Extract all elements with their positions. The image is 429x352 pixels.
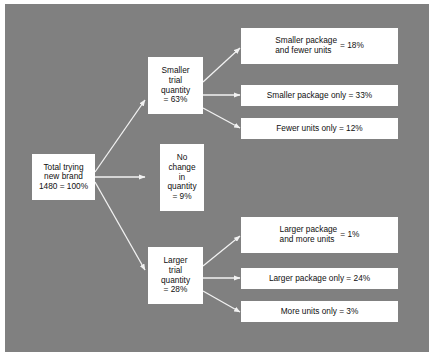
leaf-1-value: = 18% bbox=[340, 41, 364, 51]
edge-root-to-smaller bbox=[95, 100, 145, 172]
larger-line-4: = 28% bbox=[161, 285, 190, 295]
node-larger-package-and-more-units[interactable]: Larger package and more units = 1% bbox=[241, 217, 398, 253]
diagram-root: Total trying new brand 1480 = 100% Small… bbox=[0, 0, 429, 352]
edge-larger-to-leaf-1 bbox=[203, 236, 240, 266]
diagram-panel: Total trying new brand 1480 = 100% Small… bbox=[5, 4, 429, 352]
node-no-change-in-quantity[interactable]: No change in quantity = 9% bbox=[160, 144, 204, 211]
leaf-2-text: Smaller package only = 33% bbox=[267, 91, 372, 101]
node-larger-package-only[interactable]: Larger package only = 24% bbox=[241, 268, 398, 289]
root-line-3: 1480 = 100% bbox=[39, 182, 88, 192]
node-more-units-only[interactable]: More units only = 3% bbox=[241, 301, 398, 322]
node-total-trying-new-brand[interactable]: Total trying new brand 1480 = 100% bbox=[32, 154, 95, 200]
leaf-4-value: = 1% bbox=[340, 230, 359, 240]
no-change-line-5: = 9% bbox=[167, 192, 196, 202]
node-fewer-units-only[interactable]: Fewer units only = 12% bbox=[241, 118, 398, 139]
node-smaller-trial-quantity[interactable]: Smaller trial quantity = 63% bbox=[148, 57, 203, 114]
leaf-5-text: Larger package only = 24% bbox=[269, 274, 370, 284]
edge-root-to-larger bbox=[95, 182, 145, 270]
edge-smaller-to-leaf-3 bbox=[203, 108, 240, 128]
edge-larger-to-leaf-3 bbox=[203, 291, 240, 312]
leaf-1-label-line-2: and fewer units bbox=[275, 46, 337, 56]
node-larger-trial-quantity[interactable]: Larger trial quantity = 28% bbox=[148, 247, 203, 304]
node-smaller-package-only[interactable]: Smaller package only = 33% bbox=[241, 85, 398, 106]
leaf-6-text: More units only = 3% bbox=[281, 307, 359, 317]
node-smaller-package-and-fewer-units[interactable]: Smaller package and fewer units = 18% bbox=[241, 28, 398, 64]
leaf-4-label-line-2: and more units bbox=[280, 235, 338, 245]
leaf-3-text: Fewer units only = 12% bbox=[276, 124, 362, 134]
smaller-line-4: = 63% bbox=[161, 95, 190, 105]
edge-smaller-to-leaf-1 bbox=[203, 48, 240, 82]
